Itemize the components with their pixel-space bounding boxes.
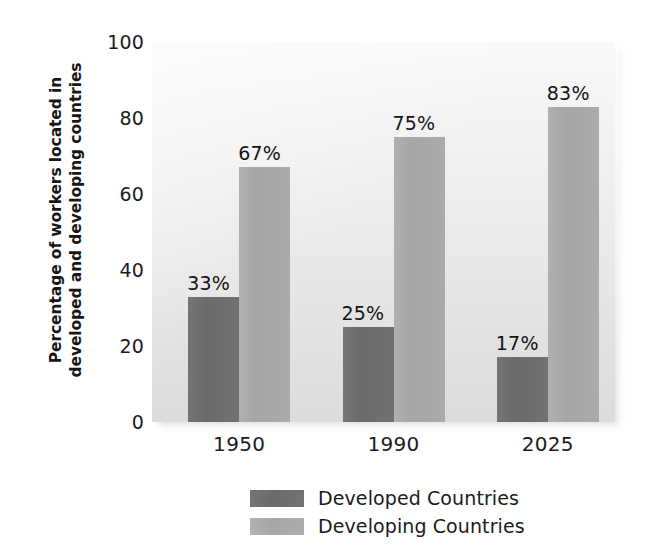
- y-axis-tick-label: 40: [88, 259, 144, 281]
- y-axis-tick-label: 0: [88, 411, 144, 433]
- bar-value-label: 25%: [342, 302, 385, 324]
- legend-swatch-icon: [250, 490, 304, 507]
- bar-1990-developed: [343, 327, 394, 422]
- legend-item-developed: Developed Countries: [250, 487, 525, 509]
- x-axis-tick-label: 1950: [213, 432, 265, 456]
- bar-1950-developed: [188, 297, 239, 422]
- y-axis-tick-label: 20: [88, 335, 144, 357]
- bar-1990-developing: [394, 137, 445, 422]
- y-axis-tick-label: 80: [88, 107, 144, 129]
- bar-chart-figure: Percentage of workers located in develop…: [0, 0, 651, 556]
- plot-area: 33%67%25%75%17%83%: [152, 42, 615, 422]
- bar-2025-developing: [548, 107, 599, 422]
- legend-item-developing: Developing Countries: [250, 515, 525, 537]
- bar-value-label: 67%: [238, 142, 281, 164]
- y-axis-tick-label: 60: [88, 183, 144, 205]
- legend-item-label: Developed Countries: [318, 487, 519, 509]
- x-axis-line: [152, 422, 615, 423]
- bar-1950-developing: [239, 167, 290, 422]
- y-axis-title-line-1: Percentage of workers located in: [47, 77, 67, 363]
- y-axis-title: Percentage of workers located in develop…: [41, 10, 93, 430]
- x-axis-tick-label: 1990: [367, 432, 419, 456]
- bar-value-label: 75%: [393, 112, 436, 134]
- chart-legend: Developed CountriesDeveloping Countries: [250, 487, 525, 537]
- bar-value-label: 83%: [547, 82, 590, 104]
- y-axis-tick-labels: 100806040200: [88, 32, 144, 432]
- x-axis-tick-labels: 195019902025: [152, 432, 615, 462]
- bar-value-label: 33%: [187, 272, 230, 294]
- y-axis-tick-label: 100: [88, 31, 144, 53]
- bar-2025-developed: [497, 357, 548, 422]
- bars-layer: 33%67%25%75%17%83%: [152, 42, 615, 422]
- legend-swatch-icon: [250, 518, 304, 535]
- y-axis-title-line-2: developed and developing countries: [67, 63, 87, 378]
- x-axis-tick-label: 2025: [522, 432, 574, 456]
- legend-item-label: Developing Countries: [318, 515, 525, 537]
- bar-value-label: 17%: [496, 332, 539, 354]
